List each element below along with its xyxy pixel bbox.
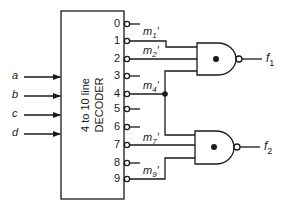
output-label-5: 5 (108, 103, 120, 114)
signal-label-m2: m2′ (143, 45, 159, 59)
decoder-title-line2: DECODER (92, 45, 106, 165)
signal-label-m9: m9′ (143, 165, 159, 179)
input-label-a: a (12, 70, 18, 81)
output-label-2: 2 (108, 53, 120, 64)
output-label-3: 3 (108, 70, 120, 81)
output-label-9: 9 (108, 173, 120, 184)
wire-m1 (130, 41, 197, 47)
input-label-c: c (12, 108, 18, 119)
output-label-7: 7 (108, 139, 120, 150)
nand-gate-1-center-dot (213, 56, 219, 62)
output-label-f2: f2 (264, 140, 272, 156)
input-label-b: b (12, 89, 18, 100)
signal-label-m4: m4′ (143, 80, 159, 94)
output-label-0: 0 (108, 18, 120, 29)
nand-gate-2-bubble (234, 144, 240, 150)
wire-m9 (130, 158, 195, 179)
signal-label-m1: m1′ (143, 26, 159, 40)
output-label-6: 6 (108, 121, 120, 132)
decoder-title-line1: 4 to 10 line (78, 45, 92, 165)
output-label-1: 1 (108, 35, 120, 46)
wire-m4-to-gate2 (165, 94, 195, 135)
signal-label-m7: m7′ (143, 132, 159, 146)
nand-gate-1-bubble (236, 56, 242, 62)
output-label-4: 4 (108, 88, 120, 99)
nand-gate-2-center-dot (211, 144, 217, 150)
input-label-d: d (12, 127, 18, 138)
junction-dot (162, 91, 168, 97)
output-bubbles (124, 21, 129, 181)
output-label-8: 8 (108, 157, 120, 168)
wire-m4-to-gate1 (165, 71, 197, 94)
decoder-title: 4 to 10 line DECODER (78, 45, 106, 165)
output-label-f1: f1 (266, 52, 274, 68)
